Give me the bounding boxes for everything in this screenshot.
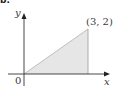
origin-label: 0 <box>15 76 21 86</box>
triangle-region-diagram: b. y x 0 (3, 2) <box>0 0 118 95</box>
x-axis-label: x <box>104 77 110 87</box>
figure-part-label: b. <box>0 0 10 5</box>
y-axis-arrow-icon <box>22 13 27 19</box>
vertex-point-label: (3, 2) <box>86 17 113 27</box>
y-axis-label: y <box>15 8 21 18</box>
